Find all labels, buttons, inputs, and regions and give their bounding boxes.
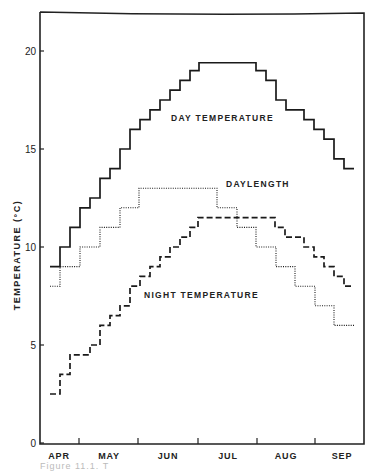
x-tick-label: APR (48, 451, 69, 461)
day-temperature-line (50, 63, 354, 267)
y-axis-ticks: 05101520 (25, 46, 44, 449)
x-axis-ticks: APRMAYJUNJULAUGSEP (48, 438, 352, 461)
y-tick-label: 5 (30, 340, 36, 351)
daylength-label: DAYLENGTH (226, 179, 290, 189)
x-tick-label: JUL (218, 451, 237, 461)
axes-box (40, 12, 364, 444)
daylength-line (50, 188, 354, 325)
plot-frame (40, 12, 364, 444)
y-tick-label: 15 (25, 144, 37, 155)
y-axis-label: TEMPERATURE (°C) (12, 200, 22, 310)
x-tick-label: AUG (275, 451, 297, 461)
y-tick-label: 0 (30, 438, 36, 449)
day-temperature-label: DAY TEMPERATURE (171, 113, 274, 123)
night-temperature-label: NIGHT TEMPERATURE (144, 290, 259, 300)
x-tick-label: JUN (158, 451, 178, 461)
y-tick-label: 10 (25, 242, 37, 253)
y-tick-label: 20 (25, 46, 37, 57)
figure-caption: Figure 11.1. T (40, 461, 109, 471)
night-temperature-line (50, 218, 354, 394)
x-tick-label: MAY (98, 451, 120, 461)
x-tick-label: SEP (332, 451, 352, 461)
